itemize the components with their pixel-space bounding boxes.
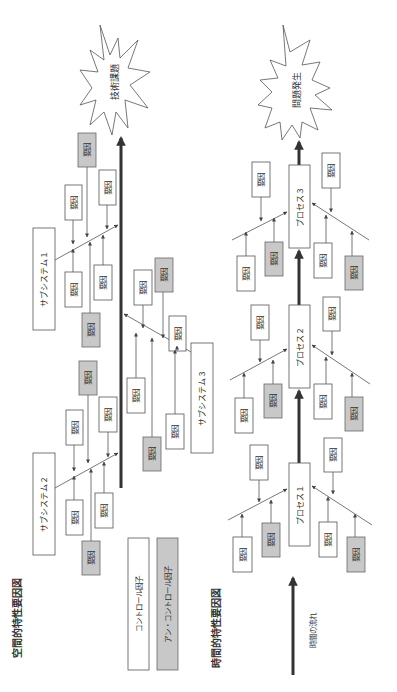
factor-label: 要因 (87, 323, 96, 337)
process-3-label: プロセス３ (296, 187, 305, 227)
factor-label: 要因 (104, 408, 113, 422)
factor-label: 要因 (100, 504, 109, 518)
spatial-effect-star: 技術課題 (80, 25, 150, 135)
factor-label: 要因 (324, 533, 333, 547)
legend-uncontrol-label: アン・コントロール因子 (164, 565, 173, 643)
subsystem-3-branch: サブシステム３ 要因 要因 要因 要因 要因 要因 (124, 258, 213, 471)
factor-label: 要因 (319, 254, 328, 268)
subsystem-1-bone (55, 225, 118, 260)
subsystem-1-branch: サブシステム１ 要因 要因 要因 要因 要因 要因 (33, 133, 118, 347)
factor-label: 要因 (270, 252, 279, 266)
factor-label: 要因 (104, 181, 113, 195)
spatial-effect-label: 技術課題 (109, 64, 120, 100)
factor-label: 要因 (327, 164, 336, 178)
factor-label: 要因 (171, 425, 180, 439)
subsystem-3-label: サブシステム３ (197, 370, 207, 426)
factor-label: 要因 (352, 548, 361, 562)
subsystem-2-label: サブシステム２ (39, 476, 49, 532)
factor-label: 要因 (70, 196, 79, 210)
process-1-label: プロセス１ (296, 485, 305, 525)
factor-label: 要因 (84, 371, 93, 385)
factor-label: 要因 (319, 395, 328, 409)
factor-label: 要因 (256, 316, 265, 330)
subsystem-1-label: サブシステム１ (39, 251, 49, 307)
process-2-label: プロセス２ (296, 327, 305, 367)
factor-label: 要因 (350, 266, 359, 280)
legend-control-label: コントロール因子 (135, 575, 144, 632)
fishbone-diagrams: 技術課題 サブシステム１ 要因 要因 要因 要因 要因 要因 サ (0, 0, 397, 692)
factor-label: 要因 (71, 511, 80, 525)
factor-label: 要因 (350, 407, 359, 421)
temporal-effect-star: 問題発生 (258, 25, 332, 140)
factor-label: 要因 (257, 173, 266, 187)
diagram-stage: 技術課題 サブシステム１ 要因 要因 要因 要因 要因 要因 サ (0, 0, 397, 692)
temporal-effect-label: 問題発生 (291, 72, 302, 108)
time-flow-label: 時間の流れ (308, 612, 318, 648)
factor-label: 要因 (240, 409, 249, 423)
subsystem-2-branch: サブシステム２ 要因 要因 要因 要因 要因 要因 (33, 361, 118, 575)
factor-label: 要因 (239, 548, 248, 562)
factor-label: 要因 (329, 448, 338, 462)
spatial-diagram: 技術課題 サブシステム１ 要因 要因 要因 要因 要因 要因 サ (11, 25, 213, 670)
spatial-title: 空間的特性要因図 (11, 578, 23, 658)
factor-label: 要因 (83, 143, 92, 157)
factor-label: 要因 (269, 394, 278, 408)
factor-label: 要因 (87, 551, 96, 565)
factor-label: 要因 (255, 456, 264, 470)
factor-label: 要因 (160, 268, 169, 282)
subsystem-2-bone (55, 453, 118, 488)
factor-label: 要因 (267, 533, 276, 547)
factor-label: 要因 (70, 283, 79, 297)
factor-label: 要因 (132, 389, 141, 403)
temporal-diagram: 問題発生 プロセス３ プロセス２ プロセス１ 要因 要因 要因 要因 要因 要因 (210, 25, 372, 675)
factor-label: 要因 (99, 276, 108, 290)
temporal-title: 時間的特性要因図 (210, 588, 222, 668)
factor-label: 要因 (328, 307, 337, 321)
factor-label: 要因 (139, 281, 148, 295)
factor-label: 要因 (242, 267, 251, 281)
legend: コントロール因子 アン・コントロール因子 (128, 538, 178, 670)
factor-label: 要因 (148, 447, 157, 461)
factor-label: 要因 (174, 327, 183, 341)
factor-label: 要因 (71, 421, 80, 435)
